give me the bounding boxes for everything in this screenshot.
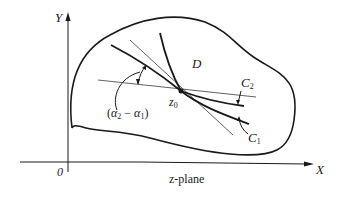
x-axis-arrow-icon	[304, 162, 314, 167]
curve-c2-label: C2	[241, 76, 254, 91]
x-axis-label: X	[316, 163, 324, 176]
angle-minus: −	[121, 106, 134, 120]
curve-c1-name: C	[248, 130, 257, 145]
plane-label: z-plane	[169, 173, 204, 185]
axes	[20, 12, 314, 172]
origin-label: 0	[57, 166, 63, 178]
x-axis-right	[140, 162, 306, 164]
c1-arrow-icon	[237, 116, 241, 121]
curve-c2-name: C	[241, 75, 250, 90]
curve-c2-subscript: 2	[250, 82, 254, 91]
region-label: D	[192, 57, 201, 70]
angle-leader	[115, 72, 140, 110]
angle-marker	[115, 66, 146, 110]
point-z0-label: z0	[169, 96, 178, 110]
curve-c1-subscript: 1	[257, 137, 261, 146]
y-axis-arrow-icon	[66, 12, 71, 21]
point-z0-subscript: 0	[174, 101, 178, 110]
angle-close-paren: )	[144, 106, 148, 120]
curve-c1-label: C1	[248, 131, 261, 146]
angle-label: (α2 − α1)	[107, 107, 148, 121]
y-axis-label: Y	[55, 11, 62, 24]
angle-arrow-top-icon	[142, 65, 146, 70]
region-d-boundary	[71, 17, 295, 155]
point-z0	[179, 89, 184, 94]
